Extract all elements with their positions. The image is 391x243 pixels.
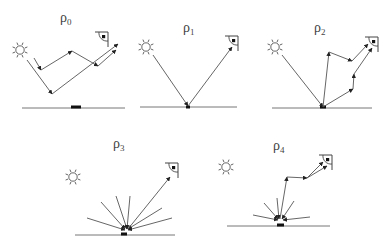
panel-rho3: ρ3 — [66, 136, 178, 235]
sun-icon — [13, 43, 28, 58]
light-ray — [52, 44, 118, 94]
panel-rho1: ρ1 — [139, 20, 238, 107]
light-ray — [41, 51, 72, 70]
eye-icon — [95, 32, 108, 47]
light-ray — [323, 52, 329, 107]
panel-label: ρ2 — [314, 20, 326, 37]
light-ray — [116, 196, 127, 229]
light-ray — [353, 74, 354, 89]
light-ray — [34, 58, 41, 70]
light-ray — [101, 202, 125, 229]
light-ray — [87, 218, 125, 230]
panel-label: ρ1 — [183, 20, 195, 37]
panel-label: ρ4 — [273, 138, 285, 155]
light-ray — [282, 55, 323, 107]
panel-rho2: ρ2 — [268, 20, 378, 108]
light-ray — [277, 198, 279, 219]
light-ray — [329, 52, 352, 61]
panel-rho4: ρ4 — [219, 138, 332, 226]
light-ray — [282, 201, 294, 219]
light-ray — [128, 218, 172, 230]
light-ray — [354, 48, 372, 74]
light-ray — [287, 177, 307, 178]
sun-icon — [139, 40, 154, 55]
light-ray — [128, 177, 170, 229]
light-ray — [323, 89, 353, 107]
panel-rho0: ρ0 — [13, 10, 125, 108]
panel-label: ρ3 — [113, 136, 125, 153]
sun-icon — [268, 40, 283, 55]
light-ray — [128, 208, 162, 229]
panel-label: ρ0 — [60, 10, 72, 27]
eye-icon — [225, 36, 238, 51]
light-ray — [352, 44, 368, 61]
light-ray — [253, 215, 278, 220]
eye-icon — [165, 163, 178, 178]
light-ray — [283, 217, 310, 220]
sun-icon — [66, 170, 81, 185]
light-ray — [264, 203, 278, 219]
sun-icon — [219, 160, 234, 175]
light-ray — [127, 196, 130, 229]
light-ray — [153, 55, 188, 106]
light-ray — [72, 51, 98, 66]
light-bounce-diagram: ρ0ρ1ρ2ρ3ρ4 — [0, 0, 391, 243]
light-ray — [188, 47, 232, 106]
eye-icon — [319, 155, 332, 170]
